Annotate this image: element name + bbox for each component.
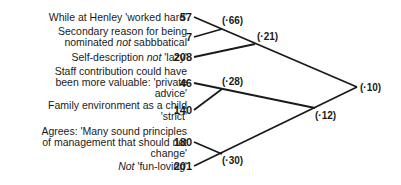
item-value-140: 140 [166,105,192,116]
node-label-30: (·30) [222,156,243,166]
node-label-66: (·66) [222,16,243,26]
node-label-12: (·12) [315,111,336,121]
node-label-28: (·28) [222,77,243,87]
item-value-46: 46 [166,78,192,89]
item-value-208: 208 [166,52,192,63]
item-value-180: 180 [166,137,192,148]
node-label-21: (·21) [257,32,278,42]
node-label-10: (·10) [360,83,381,93]
item-value-7: 7 [166,32,192,43]
item-value-57: 57 [166,12,192,23]
item-value-201: 201 [166,161,192,172]
